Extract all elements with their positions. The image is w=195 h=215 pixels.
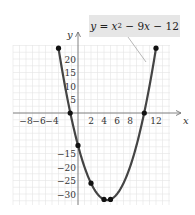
svg-text:2: 2 [88, 116, 94, 126]
svg-text:8: 8 [127, 116, 133, 126]
eq-rest1: − 9 [122, 20, 144, 32]
svg-text:12: 12 [150, 116, 161, 126]
eq-equals: = [96, 20, 111, 32]
svg-text:−4: −4 [45, 116, 59, 126]
svg-text:4: 4 [101, 116, 107, 126]
svg-text:15: 15 [65, 68, 77, 78]
svg-text:−8: −8 [19, 116, 33, 126]
svg-text:x: x [183, 115, 189, 126]
svg-text:−15: −15 [57, 149, 76, 159]
equation-label: y = x2 − 9x − 12 [89, 15, 180, 37]
svg-text:−6: −6 [32, 116, 46, 126]
svg-text:6: 6 [114, 116, 120, 126]
svg-text:y: y [66, 29, 73, 40]
svg-text:20: 20 [65, 55, 77, 65]
svg-text:−20: −20 [57, 163, 76, 173]
eq-rest2: − 12 [150, 20, 179, 32]
svg-text:−25: −25 [57, 176, 76, 186]
svg-text:5: 5 [70, 95, 76, 105]
svg-text:−30: −30 [57, 190, 76, 200]
